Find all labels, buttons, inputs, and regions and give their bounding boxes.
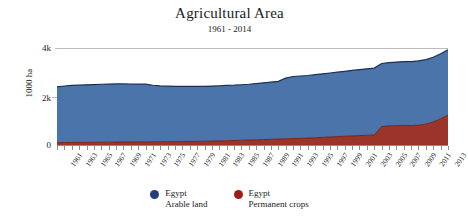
x-tick xyxy=(131,146,132,150)
x-tick xyxy=(264,146,265,150)
x-tick xyxy=(249,146,250,150)
x-tick xyxy=(426,146,427,150)
x-tick xyxy=(448,146,449,150)
x-tick-label: 2009 xyxy=(423,151,439,168)
x-tick xyxy=(109,146,110,150)
x-tick xyxy=(418,146,419,150)
x-tick-label: 1961 xyxy=(68,151,84,168)
x-tick xyxy=(160,146,161,150)
x-tick xyxy=(79,146,80,150)
x-tick-label: 1967 xyxy=(113,151,129,168)
x-tick-label: 1971 xyxy=(142,151,158,168)
x-tick-label: 2007 xyxy=(408,151,424,168)
legend-label-country: Egypt xyxy=(249,188,271,198)
legend-dot-blue-icon xyxy=(150,190,159,199)
x-tick xyxy=(227,146,228,150)
legend-label-permanent-crops: Egypt Permanent crops xyxy=(249,188,309,210)
x-tick xyxy=(138,146,139,150)
x-tick-label: 2005 xyxy=(393,151,409,168)
x-tick xyxy=(367,146,368,150)
x-tick xyxy=(315,146,316,150)
x-tick xyxy=(337,146,338,150)
x-tick xyxy=(64,146,65,150)
x-tick-label: 1989 xyxy=(275,151,291,168)
x-tick-label: 1979 xyxy=(201,151,217,168)
x-tick xyxy=(146,146,147,150)
x-tick-label: 1987 xyxy=(260,151,276,168)
x-tick xyxy=(212,146,213,150)
y-tick-label-4k: 4k xyxy=(29,44,51,53)
y-axis-title: 1000 ha xyxy=(24,48,34,118)
x-tick xyxy=(382,146,383,150)
x-tick xyxy=(116,146,117,150)
x-axis-ticks xyxy=(57,146,448,150)
x-tick xyxy=(182,146,183,150)
x-tick xyxy=(72,146,73,150)
x-tick xyxy=(293,146,294,150)
chart-legend: Egypt Arable land Egypt Permanent crops xyxy=(0,188,459,210)
legend-item-arable-land[interactable]: Egypt Arable land xyxy=(150,188,207,210)
x-tick xyxy=(374,146,375,150)
x-tick-label: 1993 xyxy=(304,151,320,168)
x-tick xyxy=(256,146,257,150)
x-tick xyxy=(441,146,442,150)
x-tick xyxy=(330,146,331,150)
chart-title: Agricultural Area xyxy=(0,5,459,22)
x-tick xyxy=(359,146,360,150)
plot-area xyxy=(57,48,448,145)
x-tick xyxy=(278,146,279,150)
x-tick-label: 1995 xyxy=(319,151,335,168)
x-tick xyxy=(308,146,309,150)
x-tick-label: 2011 xyxy=(437,151,453,168)
x-tick xyxy=(389,146,390,150)
x-tick xyxy=(197,146,198,150)
x-tick xyxy=(234,146,235,150)
x-tick-label: 1965 xyxy=(98,151,114,168)
x-tick xyxy=(352,146,353,150)
x-tick xyxy=(168,146,169,150)
x-tick xyxy=(123,146,124,150)
y-tick-label-0: 0 xyxy=(29,141,51,150)
x-tick xyxy=(190,146,191,150)
x-tick xyxy=(300,146,301,150)
x-tick xyxy=(433,146,434,150)
x-tick xyxy=(101,146,102,150)
x-tick-label: 1969 xyxy=(127,151,143,168)
x-tick xyxy=(396,146,397,150)
x-tick-label: 1981 xyxy=(216,151,232,168)
chart-subtitle: 1961 - 2014 xyxy=(0,24,459,34)
x-tick xyxy=(175,146,176,150)
x-tick-label: 1983 xyxy=(231,151,247,168)
x-tick-label: 2003 xyxy=(378,151,394,168)
x-tick xyxy=(87,146,88,150)
x-tick xyxy=(153,146,154,150)
x-tick xyxy=(323,146,324,150)
x-tick-label: 1999 xyxy=(349,151,365,168)
x-tick xyxy=(345,146,346,150)
x-tick-label: 2001 xyxy=(363,151,379,168)
x-tick xyxy=(271,146,272,150)
x-tick xyxy=(57,146,58,150)
x-tick-label: 1991 xyxy=(290,151,306,168)
stacked-area-svg xyxy=(57,48,448,145)
y-tick-label-2k: 2k xyxy=(29,94,51,103)
legend-label-sub: Arable land xyxy=(165,199,207,210)
x-tick-label: 1963 xyxy=(83,151,99,168)
x-tick-label: 1973 xyxy=(157,151,173,168)
legend-label-country: Egypt xyxy=(165,188,187,198)
x-tick-label: 1997 xyxy=(334,151,350,168)
x-tick-label: 1985 xyxy=(245,151,261,168)
x-tick xyxy=(94,146,95,150)
x-tick xyxy=(286,146,287,150)
x-tick xyxy=(241,146,242,150)
x-tick xyxy=(404,146,405,150)
x-tick xyxy=(205,146,206,150)
legend-item-permanent-crops[interactable]: Egypt Permanent crops xyxy=(234,188,309,210)
legend-label-arable-land: Egypt Arable land xyxy=(165,188,207,210)
x-tick-label: 1977 xyxy=(186,151,202,168)
x-axis-labels: 1961196319651967196919711973197519771979… xyxy=(57,151,448,181)
x-tick-label: 1975 xyxy=(172,151,188,168)
legend-dot-red-icon xyxy=(234,190,243,199)
x-tick xyxy=(411,146,412,150)
legend-label-sub: Permanent crops xyxy=(249,199,309,210)
